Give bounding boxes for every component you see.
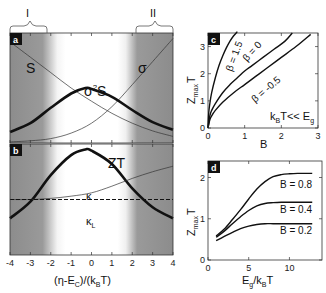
series-label-B-0.8: B = 0.8 [280, 179, 312, 190]
x-tick-label: -3 [26, 258, 34, 268]
bracket-label-II: II [150, 7, 156, 19]
series-label-B-0.4: B = 0.4 [280, 204, 312, 215]
y-tick-label: 0 [200, 123, 205, 133]
panel-c-xlabel: B [260, 138, 267, 150]
panel-d: 0510012 d B = 0.8 B = 0.4 B = 0.2 Eg/kBT… [185, 161, 322, 289]
x-tick-label: 1 [242, 131, 247, 141]
y-tick-label: 2 [200, 173, 205, 183]
panel-b-label: b [13, 146, 19, 156]
panel-c-ylabel: ZmaxT [185, 76, 199, 104]
x-tick-label: 5 [246, 263, 251, 273]
panel-d-ylabel: ZmaxT [185, 208, 199, 236]
x-tick-label: -2 [47, 258, 55, 268]
figure: a S σ σ2S I II -4-3-2-101234 b ZT κ κL (… [0, 0, 326, 293]
bracket-label-I: I [26, 7, 29, 19]
panel-d-label: d [211, 163, 217, 173]
panel-c-label: c [211, 35, 216, 45]
x-tick-label: -4 [6, 258, 14, 268]
x-tick-label: 0 [205, 263, 210, 273]
x-tick-label: 3 [315, 131, 320, 141]
x-tick-label: -1 [67, 258, 75, 268]
series-label-S: S [26, 60, 35, 76]
bracket-region-I [10, 21, 47, 33]
panel-a: a S σ σ2S I II [10, 7, 173, 143]
panel-d-xlabel: Eg/kBT [242, 274, 273, 289]
series-label-ZT: ZT [108, 155, 126, 171]
y-tick-label: 1 [200, 96, 205, 106]
x-tick-label: 4 [170, 258, 175, 268]
panel-b-xlabel: (η-EC)/(kBT) [54, 274, 111, 288]
panel-c: 01230123 c β = 1.5 β = 0 β = -0.5 kBT<< … [185, 32, 321, 150]
series-label-sigma: σ [138, 60, 147, 76]
x-tick-label: 0 [205, 131, 210, 141]
bracket-region-II [136, 21, 173, 33]
x-tick-label: 0 [89, 258, 94, 268]
x-tick-label: 3 [150, 258, 155, 268]
x-tick-label: 2 [279, 131, 284, 141]
y-tick-label: 0 [200, 255, 205, 265]
y-tick-label: 1 [200, 214, 205, 224]
x-tick-label: 1 [109, 258, 114, 268]
y-tick-label: 3 [200, 42, 205, 52]
y-tick-label: 2 [200, 69, 205, 79]
x-tick-label: 10 [284, 263, 294, 273]
series-label-B-0.2: B = 0.2 [280, 225, 312, 236]
x-tick-label: 2 [130, 258, 135, 268]
series-label-kappa: κ [86, 190, 92, 202]
panel-b: -4-3-2-101234 b ZT κ κL (η-EC)/(kBT) [6, 144, 176, 288]
